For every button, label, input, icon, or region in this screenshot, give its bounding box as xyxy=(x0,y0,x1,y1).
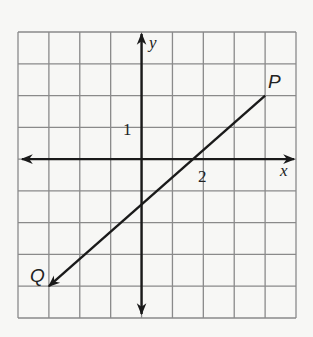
y-tick-label: 1 xyxy=(123,120,132,139)
x-tick-label: 2 xyxy=(198,167,207,186)
x-axis-label: x xyxy=(279,161,288,180)
y-axis-label: y xyxy=(147,33,157,52)
axes xyxy=(22,34,294,314)
coordinate-plane: y x 1 2 P Q xyxy=(0,0,313,337)
point-q-label: Q xyxy=(30,265,45,286)
point-p-label: P xyxy=(268,71,281,92)
